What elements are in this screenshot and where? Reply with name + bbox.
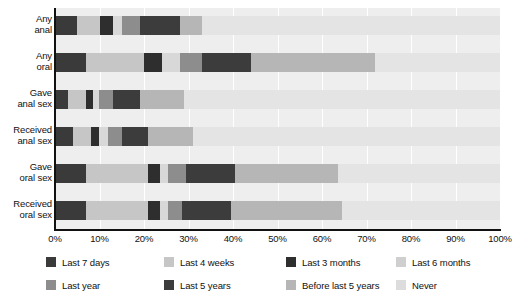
- legend-label: Before last 5 years: [302, 280, 379, 291]
- category-label: Receivedoral sex: [2, 199, 52, 220]
- legend-item[interactable]: Before last 5 years: [286, 278, 379, 292]
- bar-segment: [168, 164, 186, 183]
- bar-segment: [113, 16, 122, 35]
- x-tick-label: 60%: [313, 233, 331, 244]
- bar-segment: [73, 127, 91, 146]
- bar-segment: [193, 127, 500, 146]
- bar-segment: [235, 164, 337, 183]
- x-tick-label: 30%: [179, 233, 197, 244]
- bar-segment: [122, 127, 149, 146]
- bar-segment: [162, 53, 180, 72]
- bar-segment: [55, 90, 68, 109]
- bar-segment: [202, 53, 251, 72]
- gridline-90: [456, 8, 457, 230]
- bar-row: [55, 127, 500, 146]
- legend-item[interactable]: Last 7 days: [46, 255, 110, 269]
- gridline-30: [189, 8, 190, 230]
- legend-swatch-icon: [286, 257, 296, 267]
- x-tick-label: 20%: [135, 233, 153, 244]
- y-axis-line: [54, 8, 56, 230]
- x-tick-label: 100%: [488, 233, 512, 244]
- category-label: Anyoral: [2, 51, 52, 72]
- category-label-line: anal sex: [2, 136, 52, 147]
- bar-segment: [122, 16, 140, 35]
- category-label: Anyanal: [2, 14, 52, 35]
- gridline-70: [367, 8, 368, 230]
- bar-segment: [148, 127, 193, 146]
- x-tick-label: 10%: [90, 233, 108, 244]
- x-tick-label: 0%: [48, 233, 61, 244]
- plot-area: [55, 8, 500, 230]
- chart-legend: Last 7 daysLast 4 weeksLast 3 monthsLast…: [46, 255, 512, 297]
- bar-segment: [108, 127, 121, 146]
- legend-item[interactable]: Last 6 months: [396, 255, 470, 269]
- x-tick-label: 50%: [268, 233, 286, 244]
- bar-segment: [100, 16, 113, 35]
- bar-segment: [55, 53, 86, 72]
- bar-segment: [99, 127, 108, 146]
- legend-item[interactable]: Last 4 weeks: [164, 255, 234, 269]
- legend-item[interactable]: Last 5 years: [164, 278, 231, 292]
- bar-segment: [160, 201, 169, 220]
- legend-swatch-icon: [164, 257, 174, 267]
- bar-segment: [93, 90, 100, 109]
- legend-item[interactable]: Never: [396, 278, 437, 292]
- category-label-line: Any: [2, 51, 52, 62]
- bar-segment: [140, 90, 185, 109]
- gridline-40: [233, 8, 234, 230]
- gridline-80: [411, 8, 412, 230]
- bar-segment: [68, 90, 86, 109]
- legend-swatch-icon: [164, 280, 174, 290]
- category-label: Receivedanal sex: [2, 125, 52, 146]
- bar-row: [55, 201, 500, 220]
- bar-segment: [168, 201, 181, 220]
- bar-segment: [182, 201, 231, 220]
- bar-segment: [375, 53, 500, 72]
- legend-item[interactable]: Last year: [46, 278, 100, 292]
- bar-segment: [184, 90, 500, 109]
- bar-segment: [148, 201, 159, 220]
- bar-row: [55, 164, 500, 183]
- bar-segment: [186, 164, 235, 183]
- bar-segment: [55, 201, 86, 220]
- bar-segment: [251, 53, 376, 72]
- category-label: Gaveoral sex: [2, 162, 52, 183]
- legend-swatch-icon: [396, 257, 406, 267]
- category-label-line: Gave: [2, 162, 52, 173]
- gridline-50: [278, 8, 279, 230]
- gridline-10: [100, 8, 101, 230]
- legend-label: Last year: [62, 280, 100, 291]
- x-axis-tick-labels: 0%10%20%30%40%50%60%70%80%90%100%: [55, 233, 500, 247]
- bar-segment: [55, 16, 77, 35]
- bar-segment: [113, 90, 140, 109]
- category-label-line: anal: [2, 25, 52, 36]
- category-axis-labels: AnyanalAnyoralGaveanal sexReceivedanal s…: [0, 8, 52, 230]
- category-label-line: anal sex: [2, 99, 52, 110]
- category-label-line: oral: [2, 62, 52, 73]
- bar-segment: [86, 90, 93, 109]
- bar-row: [55, 53, 500, 72]
- x-tick-label: 80%: [402, 233, 420, 244]
- gridline-20: [144, 8, 145, 230]
- bar-segment: [99, 90, 112, 109]
- legend-item[interactable]: Last 3 months: [286, 255, 360, 269]
- legend-swatch-icon: [46, 280, 56, 290]
- gridline-100: [500, 8, 501, 230]
- bar-segment: [148, 164, 159, 183]
- x-axis-line: [54, 229, 501, 231]
- bar-segment: [55, 127, 73, 146]
- x-tick-label: 40%: [224, 233, 242, 244]
- bar-segment: [180, 53, 202, 72]
- bar-segment: [231, 201, 342, 220]
- bar-segment: [180, 16, 202, 35]
- bar-segment: [86, 201, 148, 220]
- bar-row: [55, 90, 500, 109]
- legend-label: Last 6 months: [412, 257, 470, 268]
- category-label: Gaveanal sex: [2, 88, 52, 109]
- category-label-line: Any: [2, 14, 52, 25]
- legend-label: Last 3 months: [302, 257, 360, 268]
- legend-label: Last 7 days: [62, 257, 110, 268]
- category-label-line: Received: [2, 125, 52, 136]
- category-label-line: Received: [2, 199, 52, 210]
- gridline-60: [322, 8, 323, 230]
